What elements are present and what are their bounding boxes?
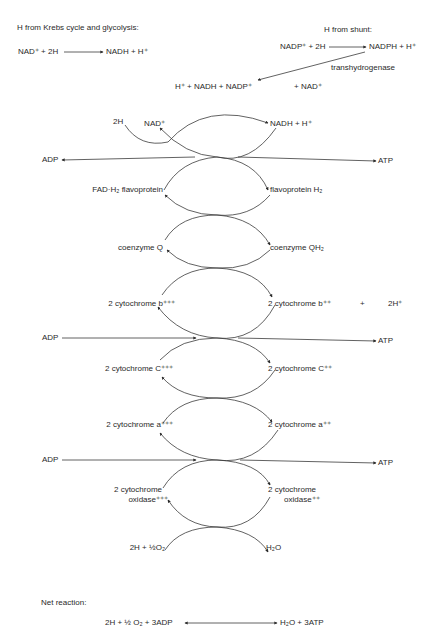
water-output-label: H₂O [266, 543, 281, 553]
phosphorylation-1-in [62, 157, 195, 160]
input-2h: 2H [113, 117, 123, 127]
coq-arc-down [217, 215, 270, 245]
cytochrome-a-ox-label: 2 cytochrome a⁺⁺⁺ [106, 420, 173, 430]
proton-release-label: 2H⁺ [388, 299, 402, 309]
coq-arc-up [165, 215, 217, 240]
oxidase-arc-up [163, 460, 217, 488]
cyta-return [160, 430, 278, 461]
nad-label: NAD⁺ [144, 119, 165, 129]
water-arc-up [165, 527, 217, 550]
water-arc-down [217, 527, 268, 552]
krebs-reactants: NAD⁺ + 2H [18, 47, 58, 57]
shunt-heading: H from shunt: [324, 25, 372, 35]
flavoprotein-h2-label: flavoprotein H₂ [270, 185, 322, 195]
krebs-heading: H from Krebs cycle and glycolysis: [17, 23, 139, 33]
nad-reduction-arc [168, 115, 268, 142]
adp-label-1: ADP [42, 155, 58, 165]
cyta-arc-down [217, 398, 272, 422]
phosphorylation-1-out [238, 157, 376, 161]
adp-label-2: ADP [42, 333, 58, 343]
oxidase-arc-down [217, 460, 270, 485]
nadh-label: NADH + H⁺ [270, 119, 312, 129]
flavo-return [165, 195, 270, 215]
plus-sign: + [360, 299, 365, 309]
phosphorylation-2-out [238, 338, 376, 341]
coq-return [167, 250, 270, 268]
transhydrogenase-label: transhydrogenase [331, 63, 395, 73]
shunt-reactants: NADP⁺ + 2H [280, 42, 326, 52]
cytc-arc-down [217, 338, 270, 363]
atp-label-2: ATP [378, 336, 393, 346]
coenzyme-qh2-label: coenzyme QH₂ [270, 243, 324, 253]
transhydrogenase-products: + NAD⁺ [294, 82, 322, 92]
oxidase-return [168, 497, 270, 527]
cytb-arc-down [217, 268, 272, 297]
phosphorylation-3-out [240, 460, 376, 463]
flavo-arc-down [217, 157, 268, 190]
fad-flavoprotein-label: FAD·H₂ flavoprotein [92, 185, 163, 195]
atp-label-3: ATP [378, 458, 393, 468]
cytc-return [162, 370, 275, 398]
cytb-arc-up [162, 268, 217, 295]
adp-label-3: ADP [42, 455, 58, 465]
cytochrome-b-red-label: 2 cytochrome b⁺⁺ [268, 299, 331, 309]
cytochrome-c-ox-label: 2 cytochrome C⁺⁺⁺ [105, 364, 173, 374]
shunt-products: NADPH + H⁺ [369, 42, 416, 52]
transhydrogenase-reactants: H⁺ + NADH + NADP⁺ [175, 82, 252, 92]
coenzyme-q-label: coenzyme Q [118, 243, 163, 253]
krebs-products: NADH + H⁺ [106, 47, 148, 57]
atp-label-1: ATP [378, 156, 393, 166]
oxygen-input-label: 2H + ½O₂ [130, 543, 165, 553]
cytochrome-oxidase-ox-line1: 2 cytochrome [114, 485, 162, 495]
net-reactants: 2H + ½ O₂ + 3ADP [105, 618, 173, 628]
cytc-arc-up [160, 338, 217, 360]
flavo-arc-up [164, 157, 217, 190]
net-reaction-heading: Net reaction: [41, 598, 86, 608]
net-products: H₂O + 3ATP [280, 618, 324, 628]
cytochrome-a-red-label: 2 cytochrome a⁺⁺ [268, 420, 331, 430]
electron-transport-diagram [0, 0, 433, 640]
cytb-return [158, 305, 275, 338]
cytochrome-b-ox-label: 2 cytochrome b⁺⁺⁺ [108, 299, 175, 309]
cytochrome-oxidase-red-line2: oxidase⁺⁺ [284, 495, 320, 505]
cytochrome-c-red-label: 2 cytochrome C⁺⁺ [268, 364, 332, 374]
cytochrome-oxidase-ox-line2: oxidase⁺⁺⁺ [128, 495, 168, 505]
cytochrome-oxidase-red-line1: 2 cytochrome [268, 485, 316, 495]
